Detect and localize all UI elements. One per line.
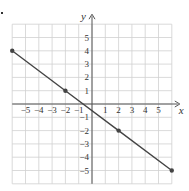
y-tick-label: 2 (85, 72, 90, 82)
x-tick-label: −3 (47, 105, 57, 115)
bullet-marker (1, 12, 3, 14)
y-tick-label: 3 (85, 59, 90, 69)
data-point (170, 168, 174, 172)
y-tick-label: −2 (79, 126, 89, 136)
y-axis-label: y (80, 10, 86, 22)
y-tick-label: 1 (85, 86, 90, 96)
x-tick-label: −2 (61, 105, 71, 115)
x-axis-label: x (178, 104, 184, 116)
y-tick-label: −1 (79, 112, 89, 122)
x-tick-label: 3 (130, 105, 135, 115)
data-point (10, 49, 14, 53)
y-tick-label: −4 (79, 152, 89, 162)
y-tick-label: 4 (85, 46, 90, 56)
y-tick-label: 5 (85, 33, 90, 43)
x-tick-label: 1 (103, 105, 108, 115)
y-tick-label: −3 (79, 139, 89, 149)
data-point (63, 89, 67, 93)
coordinate-plane: xy−5−4−3−2−11234554321−1−2−3−4−5 (0, 0, 189, 191)
x-tick-label: −4 (34, 105, 44, 115)
y-tick-label: −5 (79, 166, 89, 176)
data-point (116, 128, 120, 132)
x-tick-label: 5 (156, 105, 161, 115)
x-tick-label: 2 (116, 105, 121, 115)
x-tick-label: 4 (143, 105, 148, 115)
x-tick-label: −5 (21, 105, 31, 115)
